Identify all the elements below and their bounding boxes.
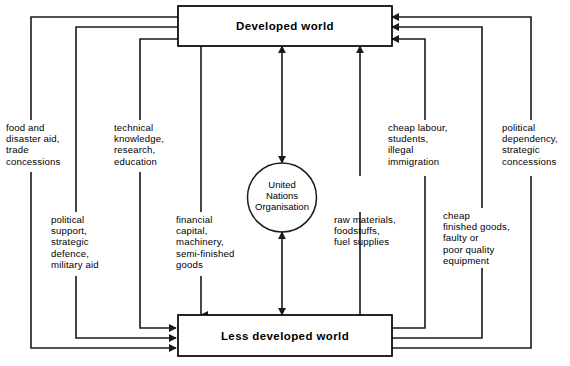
flow-label-political-dependency: political dependency, strategic concessi…: [502, 122, 558, 167]
flow-label-technical-knowledge: technical knowledge, research, education: [114, 122, 164, 167]
flow-path-cheap-labour-upper: [392, 39, 425, 120]
flow-label-political-support: political support, strategic defence, mi…: [51, 214, 99, 270]
node-un-label-line2: Nations: [266, 190, 298, 201]
flow-path-food-and-disaster-aid: [31, 17, 178, 120]
flow-path-political-support: [76, 27, 178, 212]
node-developed-world-label: Developed world: [236, 20, 334, 32]
flow-label-cheap-finished-goods: cheap finished goods, faulty or poor qua…: [443, 210, 510, 266]
flow-path-cheap-finished-goods-upper: [392, 27, 482, 208]
node-un-label-line1: United: [268, 179, 295, 190]
diagram-canvas: Developed world Less developed world Uni…: [0, 0, 570, 366]
flow-path-political-dependency-upper: [392, 17, 531, 120]
node-less-developed-world-label: Less developed world: [221, 330, 349, 342]
flow-diagram-svg: Developed world Less developed world Uni…: [0, 0, 570, 366]
flow-path-technical-knowledge-lower: [140, 172, 176, 328]
flow-label-raw-materials: raw materials, foodstuffs, fuel supplies: [334, 214, 396, 248]
flow-label-financial-capital: financial capital, machinery, semi-finis…: [176, 214, 234, 270]
flow-label-cheap-labour: cheap labour, students, illegal immigrat…: [388, 122, 448, 167]
flow-label-food-and-disaster-aid: food and disaster aid, trade concessions: [6, 122, 60, 167]
flow-path-technical-knowledge: [140, 39, 178, 120]
node-un-label-line3: Organisation: [255, 201, 309, 212]
flow-path-cheap-labour-lower: [392, 176, 425, 328]
